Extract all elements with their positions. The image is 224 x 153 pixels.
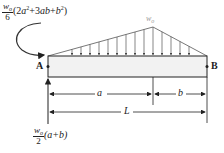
- reaction-label: wo 2 (a+b): [33, 126, 67, 146]
- distributed-load: [48, 27, 207, 56]
- load-intensity-label: wo: [146, 14, 154, 24]
- moment-label: wo 6 (2a2+3ab+b2): [2, 2, 67, 22]
- support-a-pin: [47, 65, 50, 68]
- support-a-label: A: [36, 60, 43, 71]
- dimension-b-label: b: [178, 87, 183, 98]
- dimension-a-label: a: [97, 87, 102, 98]
- dimension-L-label: L: [124, 105, 130, 116]
- support-b-label: B: [211, 60, 218, 71]
- moment-arrow: [16, 23, 44, 55]
- beam: [48, 56, 207, 77]
- support-b-pin: [206, 65, 209, 68]
